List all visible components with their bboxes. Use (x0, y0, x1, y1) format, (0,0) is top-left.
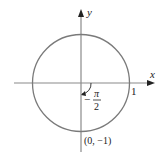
unit-circle-diagram: y x 1 − π 2 (0, −1) (0, 0, 164, 152)
x-axis-arrow-icon (147, 80, 155, 86)
x-axis-label: x (149, 68, 155, 80)
y-axis-arrow-icon (78, 9, 84, 17)
point-label: (0, −1) (84, 135, 111, 147)
x-intercept-label: 1 (131, 85, 137, 97)
angle-numerator: π (94, 88, 100, 99)
y-axis-label: y (86, 6, 92, 18)
angle-sign: − (84, 93, 90, 105)
angle-denominator: 2 (94, 101, 99, 112)
